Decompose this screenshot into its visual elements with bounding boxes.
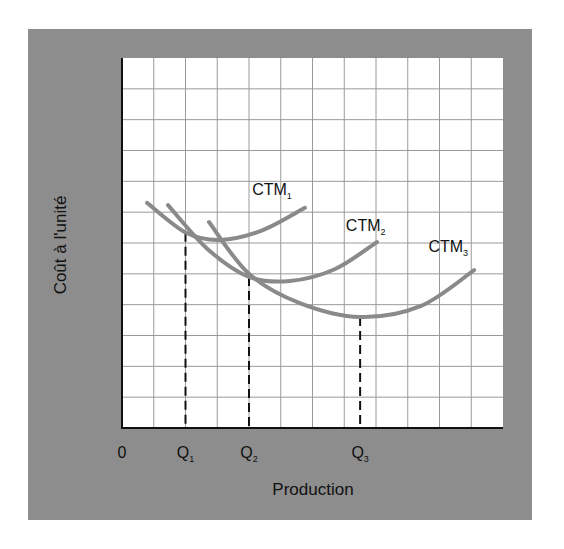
curve-label-ctm2: CTM2 [346,217,386,237]
x-tick-label-0: 0 [118,444,127,461]
curve-label-ctm1: CTM1 [252,181,292,201]
chart: 0Q1Q2Q3 CTM1CTM2CTM3 Production Coût à l… [0,0,564,549]
x-axis-label: Production [272,480,353,499]
y-axis-label: Coût à l'unité [51,196,70,295]
